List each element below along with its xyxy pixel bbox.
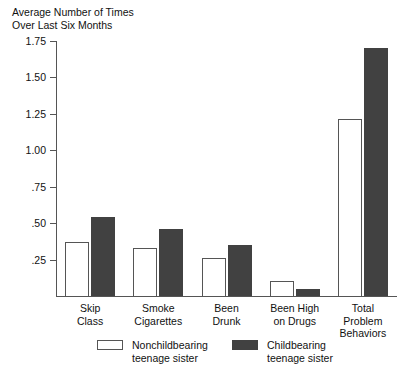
bar-childbearing (159, 229, 183, 296)
legend-item: Childbearing teenage sister (232, 339, 333, 364)
bar-nonchildbearing (65, 242, 89, 296)
bar-childbearing (91, 217, 115, 296)
x-axis-line (56, 296, 397, 297)
category-label: Skip Class (56, 302, 124, 327)
y-tick-mark (50, 150, 57, 151)
bar-nonchildbearing (133, 248, 157, 296)
y-tick-mark (50, 41, 57, 42)
bar-nonchildbearing (202, 258, 226, 296)
category-label: Smoke Cigarettes (124, 302, 192, 327)
y-tick-label: 1.00 (0, 145, 46, 155)
y-tick-label: .25 (0, 255, 46, 265)
category-label: Total Problem Behaviors (329, 302, 397, 340)
bar-nonchildbearing (338, 119, 362, 296)
y-tick-mark (50, 223, 57, 224)
legend-swatch-dark (232, 340, 258, 350)
y-tick-label: 1.75 (0, 36, 46, 46)
y-tick-mark (50, 114, 57, 115)
legend-label: Childbearing teenage sister (267, 339, 333, 364)
y-tick-mark (50, 260, 57, 261)
chart-legend: Nonchildbearing teenage sisterChildbeari… (0, 339, 413, 372)
y-tick-mark (50, 77, 57, 78)
y-tick-label: .75 (0, 182, 46, 192)
y-tick-label: .50 (0, 218, 46, 228)
bar-nonchildbearing (270, 281, 294, 296)
bar-childbearing (228, 245, 252, 296)
legend-swatch-light (97, 340, 123, 350)
bar-childbearing (364, 48, 388, 296)
category-label: Been High on Drugs (261, 302, 329, 327)
bar-chart-plot-area: 1.751.501.251.00.75.50.25 Skip ClassSmok… (0, 0, 413, 372)
bar-childbearing (296, 289, 320, 296)
y-tick-label: 1.25 (0, 109, 46, 119)
y-tick-label: 1.50 (0, 72, 46, 82)
legend-label: Nonchildbearing teenage sister (132, 339, 208, 364)
y-tick-mark (50, 187, 57, 188)
legend-item: Nonchildbearing teenage sister (97, 339, 208, 364)
category-label: Been Drunk (192, 302, 260, 327)
